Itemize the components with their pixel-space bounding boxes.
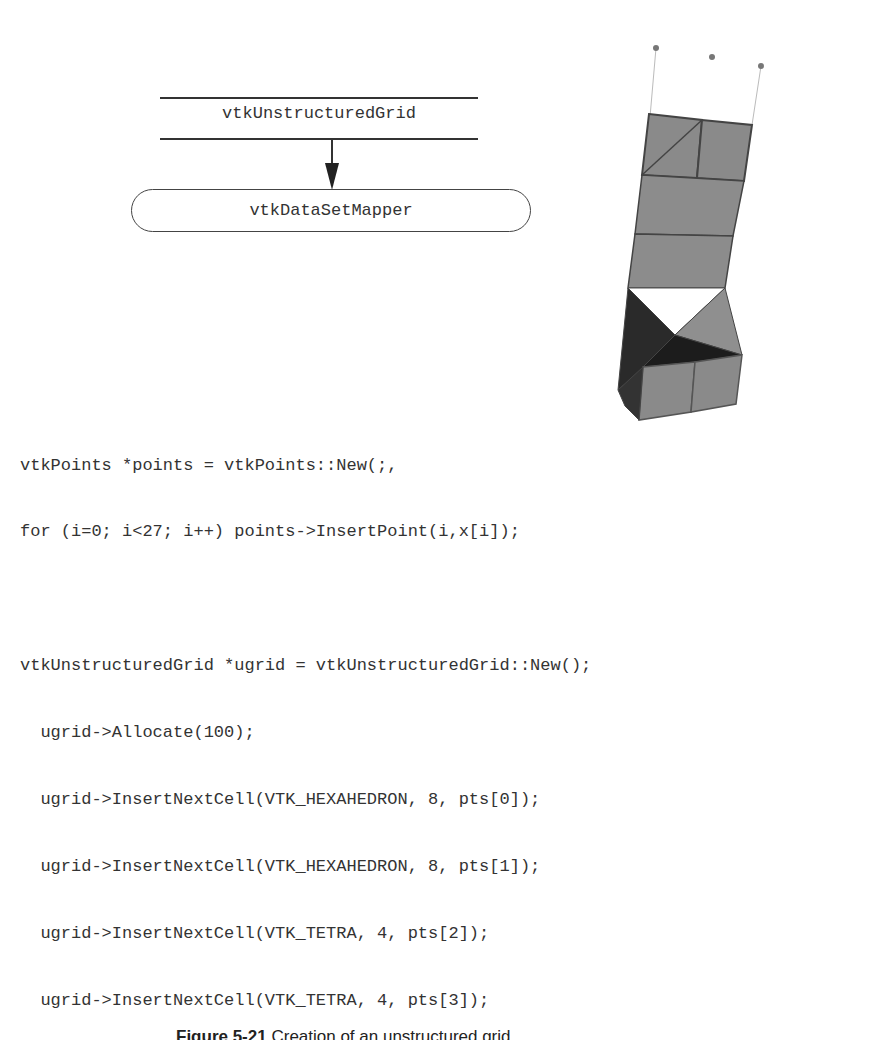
code-listing: vtkPoints *points = vtkPoints::New(;, fo… [20, 410, 591, 1040]
unstructured-grid-label: vtkUnstructuredGrid [160, 104, 478, 123]
mapper-label: vtkDataSetMapper [249, 201, 412, 220]
line-cell [650, 48, 656, 117]
line-cell [752, 66, 761, 125]
code-line: for (i=0; i<27; i++) points->InsertPoint… [20, 521, 591, 543]
arrow-down-icon [325, 163, 339, 190]
code-line: ugrid->InsertNextCell(VTK_HEXAHEDRON, 8,… [20, 789, 591, 811]
vertex-point [758, 63, 764, 69]
hexahedron-cell [691, 355, 742, 412]
pipeline-diagram: vtkUnstructuredGrid vtkDataSetMapper [0, 0, 560, 250]
code-line: ugrid->InsertNextCell(VTK_TETRA, 4, pts[… [20, 990, 591, 1012]
quad-cell [697, 120, 752, 181]
polygon-cell [635, 175, 744, 236]
hexahedron-cell [639, 362, 695, 420]
source-bottom-rule [160, 138, 478, 140]
code-line: ugrid->Allocate(100); [20, 722, 591, 744]
vertex-point [653, 45, 659, 51]
source-top-rule [160, 97, 478, 99]
code-line: ugrid->InsertNextCell(VTK_HEXAHEDRON, 8,… [20, 856, 591, 878]
mapper-box: vtkDataSetMapper [131, 189, 531, 232]
triangle-cell [642, 114, 702, 178]
figure-caption-text: Creation of an unstructured grid. [271, 1027, 515, 1040]
figure-number: Figure 5-21 [176, 1027, 267, 1040]
code-line: ugrid->InsertNextCell(VTK_TETRA, 4, pts[… [20, 923, 591, 945]
code-line: vtkPoints *points = vtkPoints::New(;, [20, 455, 591, 477]
unstructured-grid-render [580, 30, 800, 430]
figure-caption: Figure 5-21 Creation of an unstructured … [176, 1027, 515, 1040]
code-line: vtkUnstructuredGrid *ugrid = vtkUnstruct… [20, 655, 591, 677]
triangle-strip-cell [628, 234, 733, 288]
code-line [20, 588, 591, 610]
vertex-point [709, 54, 715, 60]
